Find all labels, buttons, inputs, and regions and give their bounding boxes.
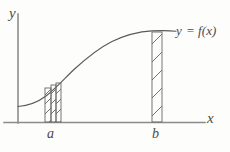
rect-b-hatching bbox=[148, 30, 166, 136]
function-label-rhs: = f(x) bbox=[186, 23, 217, 38]
x-tick-label-a: a bbox=[47, 127, 54, 141]
x-axis-label: x bbox=[207, 111, 214, 126]
function-label-lhs: y bbox=[176, 23, 182, 38]
y-axis-label: y bbox=[9, 6, 16, 21]
x-tick-label-b: b bbox=[152, 127, 159, 141]
hatched-strips-at-a bbox=[37, 83, 74, 134]
function-label: y= f(x) bbox=[176, 24, 217, 37]
hatched-rect-at-b bbox=[148, 30, 166, 136]
strip-3-outline bbox=[56, 83, 61, 122]
rect-b-outline bbox=[152, 32, 162, 122]
integral-figure: y x a b y= f(x) bbox=[0, 0, 230, 152]
